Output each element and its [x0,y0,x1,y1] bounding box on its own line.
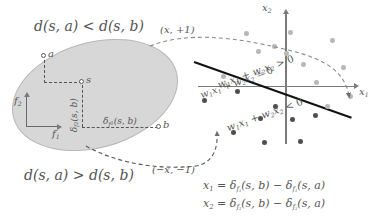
axis-x2-arrow [283,9,289,14]
nx1s: 1 [244,120,250,128]
px1s: 1 [235,77,241,85]
equation-x1: x1 = δf1(s, b) − δf1(s, a) [203,180,325,193]
point-a [41,53,46,58]
scatter-dot-negative [313,113,318,118]
feature-axis-x-line [26,126,58,127]
axis-x1-label: x1 [359,87,369,98]
point-s-label: s [86,75,91,85]
feature-axis-y-arrow [24,92,30,97]
eq2-eq: = [217,197,226,210]
scatter-dot-positive [272,44,277,49]
feature-axis-f2-label: f2 [14,96,22,107]
pplus: + [240,68,252,81]
scatter-dot-negative [290,117,295,122]
point-s [79,79,84,84]
scatter-dot-positive [256,49,261,54]
delta-f1-args: (s, b) [114,116,137,126]
point-b-label: b [163,120,169,130]
scatter-dot-negative [298,139,303,144]
dashed-segment-a-vertical [44,60,45,83]
inequality-top-label: d(s, a) < d(s, b) [34,19,144,33]
delta-f2-label: δf2(s, b) [70,98,80,132]
delta-f2-symbol: δ [69,127,79,132]
eq2-minus: − [273,197,282,210]
nplus: + [249,111,261,124]
scatter-dot-positive [325,104,330,109]
feature-axis-f1-label: f1 [52,129,60,140]
axis-x2-line [285,14,287,144]
eq1-eq: = [217,179,226,192]
eq1-term2: δf1(s, a) [286,179,325,192]
scatter-dot-negative [262,140,267,145]
nlt: < 0 [284,96,305,112]
x1-sub: 1 [365,91,369,98]
eq2-term2: δf2(s, a) [286,197,325,210]
axis-x2-label: x2 [262,3,272,14]
negative-region-label: w1x1 + w2x2 < 0 [225,97,304,134]
point-b [156,124,161,129]
equation-x2: x2 = δf2(s, b) − δf2(s, a) [203,198,325,211]
eq2-lhs: x2 [203,197,214,210]
dashed-segment-s-horizontal [82,127,158,128]
scatter-dot-positive [244,31,249,36]
dashed-segment-a-horizontal [44,82,82,83]
dashed-segment-s-vertical [82,85,83,127]
inequality-bottom-label: d(s, a) > d(s, b) [24,168,134,182]
eq2-term1: δf2(s, b) [230,197,270,210]
eq1-lhs: x1 [203,179,214,192]
delta-f1-label: δf1(s, b) [103,117,137,127]
scatter-dot-positive [314,80,319,85]
x2-sub: 2 [268,7,272,14]
mapping-positive-label: (x, +1) [160,25,195,35]
delta-f2-args: (s, b) [69,98,79,121]
eq1-term1: δf1(s, b) [230,179,270,192]
feature-axis-y-line [26,97,27,127]
figure-root: d(s, a) < d(s, b) d(s, a) > d(s, b) a s … [0,0,389,220]
f1-sub: 1 [56,133,60,140]
scatter-dot-positive [330,38,335,43]
delta-f2-sub: f [73,125,79,127]
scatter-dot-positive [341,65,346,70]
scatter-dot-positive [301,62,306,67]
point-a-label: a [48,49,54,59]
f2-sub: 2 [18,100,22,107]
scatter-dot-positive [288,30,293,35]
scatter-dot-positive [348,94,353,99]
delta-f2-subsub: 2 [73,121,79,124]
scatter-plot: x2 x1 w1x1 + w2x2 = 0 w1x1 + w2x2 > 0 w1… [196,8,389,173]
mapping-negative-label: (−x, −1) [152,165,195,175]
pgt: > 0 [275,53,296,69]
eq1-minus: − [273,179,282,192]
